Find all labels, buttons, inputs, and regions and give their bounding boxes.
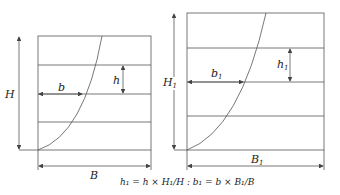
- right-width-label: B1: [251, 154, 264, 167]
- diagram-canvas: [0, 0, 340, 195]
- left-curve: [38, 36, 102, 150]
- right-height-label: H1: [163, 77, 177, 90]
- right-offset-label: b1: [211, 68, 223, 81]
- left-width-label: B: [90, 170, 98, 181]
- left-spacing-label: h: [113, 75, 120, 86]
- left-height-label: H: [5, 89, 15, 100]
- scaling-formula: h₁ = h × H₁/H : b₁ = b × B₁/B: [120, 177, 254, 187]
- right-grid: [174, 13, 324, 170]
- left-offset-label: b: [58, 82, 65, 93]
- right-curve: [187, 13, 266, 150]
- right-spacing-label: h1: [277, 59, 289, 72]
